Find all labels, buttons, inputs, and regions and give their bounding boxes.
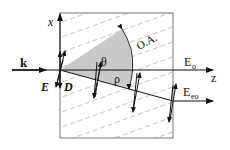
field-vectors-mid2 — [133, 73, 140, 112]
x-axis-label: x — [47, 15, 54, 29]
ordinary-label: E o — [184, 55, 196, 71]
optic-axis-label: O.A. — [134, 31, 159, 52]
extraordinary-label: E eo — [183, 85, 199, 101]
rho-label: ρ — [114, 72, 120, 86]
D-field-label: D — [63, 80, 73, 94]
birefringence-diagram: x k z O.A. θ ρ E D E o E eo — [0, 0, 230, 150]
svg-text:eo: eo — [191, 92, 199, 101]
theta-label: θ — [101, 55, 107, 69]
z-axis-label: z — [211, 71, 216, 85]
svg-text:o: o — [192, 62, 196, 71]
E-field-label: E — [40, 80, 49, 94]
svg-text:E: E — [184, 55, 191, 69]
svg-text:E: E — [183, 85, 190, 99]
k-label: k — [20, 55, 28, 70]
